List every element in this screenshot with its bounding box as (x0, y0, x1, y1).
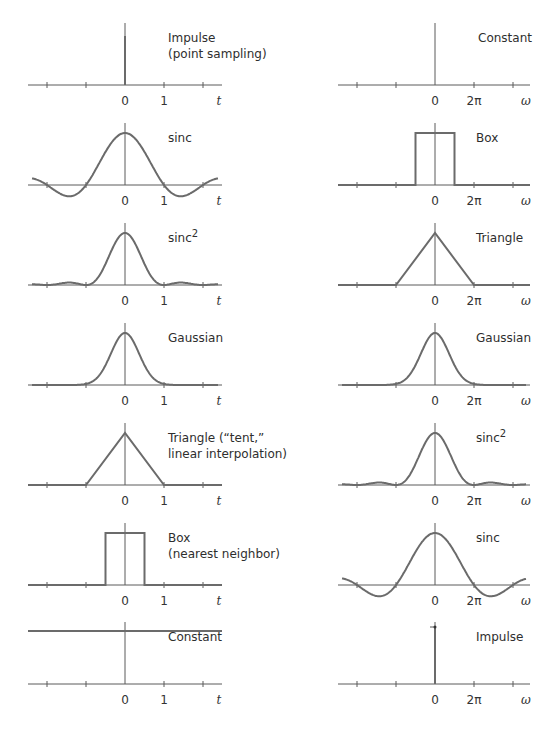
frequency-panel-triangle: 02πωTriangle (338, 223, 531, 308)
x-axis-label: t (217, 294, 222, 308)
frequency-panel-gaussian: 02πωGaussian (338, 323, 531, 408)
function-subtitle-label: linear interpolation) (168, 447, 287, 461)
tick-label-one: 2π (467, 94, 482, 108)
tick-label-one: 2π (467, 494, 482, 508)
function-subtitle-label: (point sampling) (168, 47, 267, 61)
x-axis-label: t (217, 494, 222, 508)
tick-label-one: 2π (467, 594, 482, 608)
function-name-label: Triangle (475, 231, 523, 245)
tick-label-one: 1 (160, 394, 168, 408)
tick-label-zero: 0 (431, 294, 439, 308)
function-name-label: Triangle (“tent,” (167, 431, 264, 445)
tick-label-one: 1 (160, 194, 168, 208)
function-name-label: sinc2 (168, 228, 198, 245)
x-axis-label: t (217, 394, 222, 408)
frequency-panel-box: 02πωBox (338, 123, 531, 208)
tick-label-zero: 0 (121, 294, 129, 308)
function-name-label: sinc (476, 531, 500, 545)
spatial-panel-impulse: 01tImpulse(point sampling) (28, 23, 267, 108)
tick-label-zero: 0 (121, 594, 129, 608)
function-name-label: sinc2 (476, 428, 506, 445)
function-name-label: Constant (168, 630, 222, 644)
x-axis-label: ω (521, 594, 531, 608)
function-name-label: Gaussian (476, 331, 531, 345)
tick-label-zero: 0 (121, 693, 129, 707)
x-axis-label: ω (521, 94, 531, 108)
tick-label-zero: 0 (431, 194, 439, 208)
function-name-label: Gaussian (168, 331, 223, 345)
x-axis-label: t (217, 194, 222, 208)
x-axis-label: ω (521, 394, 531, 408)
frequency-panel-sinc2: 02πωsinc2 (338, 423, 531, 508)
x-axis-label: ω (521, 494, 531, 508)
tick-label-zero: 0 (121, 94, 129, 108)
frequency-panel-sinc: 02πωsinc (338, 523, 531, 608)
spatial-panel-sinc: 01tsinc (28, 123, 222, 208)
tick-label-one: 1 (160, 94, 168, 108)
tick-label-one: 2π (467, 693, 482, 707)
spatial-panel-triangle: 01tTriangle (“tent,”linear interpolation… (28, 423, 287, 508)
function-name-label: Box (168, 531, 190, 545)
x-axis-label: t (217, 693, 222, 707)
tick-label-one: 2π (467, 194, 482, 208)
spatial-panel-sinc2: 01tsinc2 (28, 223, 222, 308)
frequency-panel-constant_on_axis: 02πωConstant (338, 23, 532, 108)
function-subtitle-label: (nearest neighbor) (168, 547, 280, 561)
tick-label-one: 2π (467, 394, 482, 408)
tick-label-zero: 0 (121, 494, 129, 508)
function-name-label: Constant (478, 31, 532, 45)
tick-label-zero: 0 (121, 194, 129, 208)
x-axis-label: ω (521, 693, 531, 707)
tick-label-one: 1 (160, 294, 168, 308)
tick-label-one: 2π (467, 294, 482, 308)
x-axis-label: t (217, 94, 222, 108)
tick-label-one: 1 (160, 594, 168, 608)
function-name-label: Impulse (476, 630, 523, 644)
spatial-panel-box: 01tBox(nearest neighbor) (28, 523, 280, 608)
spatial-panel-gaussian: 01tGaussian (28, 323, 223, 408)
tick-label-zero: 0 (431, 394, 439, 408)
tick-label-zero: 0 (431, 594, 439, 608)
box-curve (338, 133, 530, 185)
tick-label-zero: 0 (121, 394, 129, 408)
tick-label-one: 1 (160, 494, 168, 508)
x-axis-label: t (217, 594, 222, 608)
function-name-label: Impulse (168, 31, 215, 45)
x-axis-label: ω (521, 194, 531, 208)
tick-label-zero: 0 (431, 94, 439, 108)
spatial-panel-constant: 01tConstant (28, 622, 222, 707)
tick-label-zero: 0 (431, 693, 439, 707)
tick-label-one: 1 (160, 693, 168, 707)
function-name-label: sinc (168, 131, 192, 145)
frequency-panel-impulse: 02πωImpulse (338, 622, 531, 707)
filter-transform-figure: 01tImpulse(point sampling)02πωConstant01… (0, 0, 560, 740)
function-name-label: Box (476, 131, 498, 145)
tick-label-zero: 0 (431, 494, 439, 508)
x-axis-label: ω (521, 294, 531, 308)
